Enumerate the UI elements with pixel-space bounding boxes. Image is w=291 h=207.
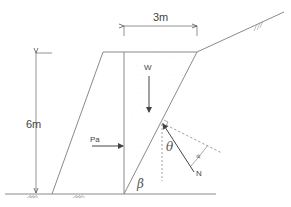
width-dimension-label: 3m: [153, 12, 168, 23]
beta-label: β: [137, 178, 144, 190]
retaining-wall: [52, 52, 124, 194]
retaining-wall-diagram: [0, 0, 291, 207]
theta-label: θ: [166, 141, 173, 153]
ground-hatch-icon: [27, 195, 85, 198]
height-dimension-label: 6m: [26, 119, 41, 130]
backfill-slope: [197, 12, 284, 52]
weight-label: W: [144, 64, 152, 72]
normal-force-label: N: [196, 170, 202, 178]
active-force-label: Pa: [90, 136, 100, 144]
